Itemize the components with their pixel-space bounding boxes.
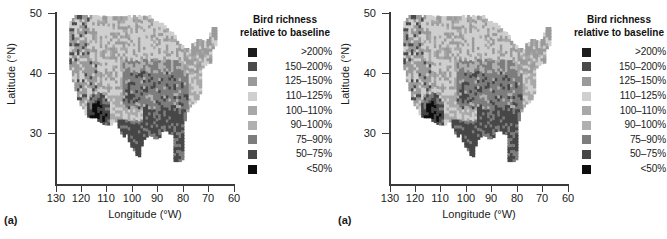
legend-item-label: 110–125% bbox=[257, 91, 334, 101]
legend-swatch-icon bbox=[582, 48, 591, 57]
y-tick-label-30: 30 bbox=[350, 128, 376, 139]
legend-item: 150–200% bbox=[238, 60, 334, 75]
x-tick-label-80: 80 bbox=[170, 193, 196, 204]
legend-swatch-icon bbox=[248, 106, 257, 115]
legend-item: 150–200% bbox=[572, 60, 667, 75]
y-tick-label-40: 40 bbox=[16, 68, 42, 79]
legend-swatch-icon bbox=[582, 62, 591, 71]
legend-item: 75–90% bbox=[572, 133, 667, 148]
panel-label: (a) bbox=[4, 214, 17, 226]
y-tick-label-30: 30 bbox=[16, 128, 42, 139]
legend-item: 90–100% bbox=[572, 118, 667, 133]
x-tick-label-120: 120 bbox=[402, 193, 428, 204]
x-tick-label-60: 60 bbox=[555, 193, 581, 204]
map-cells bbox=[69, 15, 217, 162]
legend-item: 110–125% bbox=[238, 89, 334, 104]
x-tick-label-110: 110 bbox=[93, 193, 119, 204]
legend-item-label: 100–110% bbox=[591, 106, 667, 116]
legend-item-label: 75–90% bbox=[591, 135, 667, 145]
legend-item-label: 110–125% bbox=[591, 91, 667, 101]
x-axis-title: Longitude (°W) bbox=[389, 208, 569, 220]
legend-entries: >200% 150–200% 125–150% 110–125% 100–110… bbox=[572, 45, 667, 176]
legend-title-line2: relative to baseline bbox=[237, 27, 333, 40]
legend-item: 100–110% bbox=[572, 103, 667, 118]
y-tick-label-40: 40 bbox=[350, 68, 376, 79]
y-tick-40 bbox=[382, 73, 389, 74]
y-tick-30 bbox=[382, 133, 389, 134]
legend-title-line2: relative to baseline bbox=[571, 27, 667, 40]
legend-item-label: 125–150% bbox=[257, 76, 334, 86]
legend-item: 75–90% bbox=[238, 133, 334, 148]
y-tick-label-50: 50 bbox=[350, 8, 376, 19]
legend-item: 90–100% bbox=[238, 118, 334, 133]
legend-title-line1: Bird richness bbox=[571, 14, 667, 27]
legend-swatch-icon bbox=[248, 48, 257, 57]
legend-item: 110–125% bbox=[572, 89, 667, 104]
x-axis-title: Longitude (°W) bbox=[55, 208, 235, 220]
y-tick-30 bbox=[48, 133, 55, 134]
panel-right: 50 40 30 130 120 110 100 90 80 70 60 Lat… bbox=[334, 0, 667, 239]
legend-item: 125–150% bbox=[572, 74, 667, 89]
legend-swatch-icon bbox=[248, 62, 257, 71]
legend: Bird richness relative to baseline >200%… bbox=[238, 14, 334, 176]
legend-item-label: 90–100% bbox=[257, 120, 334, 130]
legend-item: >200% bbox=[572, 45, 667, 60]
legend-title-line1: Bird richness bbox=[237, 14, 333, 27]
x-tick-label-100: 100 bbox=[453, 193, 479, 204]
legend-swatch-icon bbox=[582, 150, 591, 159]
x-tick-label-60: 60 bbox=[221, 193, 247, 204]
legend-item-label: 125–150% bbox=[591, 76, 667, 86]
legend-item: >200% bbox=[238, 45, 334, 60]
x-tick-label-100: 100 bbox=[119, 193, 145, 204]
x-tick-label-70: 70 bbox=[195, 193, 221, 204]
x-tick-label-90: 90 bbox=[478, 193, 504, 204]
choropleth-map bbox=[56, 12, 234, 185]
y-axis-title: Latitude (°N) bbox=[5, 29, 17, 119]
legend-item: 50–75% bbox=[572, 147, 667, 162]
legend-swatch-icon bbox=[248, 92, 257, 101]
legend-item-label: 75–90% bbox=[257, 135, 334, 145]
y-tick-50 bbox=[48, 13, 55, 14]
legend-item-label: 50–75% bbox=[257, 149, 334, 159]
legend-item-label: <50% bbox=[257, 164, 334, 174]
figure-bird-richness-maps: 50 40 30 130 120 110 100 90 80 70 60 Lat… bbox=[0, 0, 667, 239]
legend-swatch-icon bbox=[248, 77, 257, 86]
legend-swatch-icon bbox=[582, 77, 591, 86]
legend-item-label: 150–200% bbox=[257, 62, 334, 72]
x-tick-label-130: 130 bbox=[43, 193, 69, 204]
x-tick-label-70: 70 bbox=[529, 193, 555, 204]
map-svg bbox=[56, 12, 234, 185]
legend-entries: >200% 150–200% 125–150% 110–125% 100–110… bbox=[238, 45, 334, 176]
legend-item-label: >200% bbox=[257, 47, 334, 57]
legend-swatch-icon bbox=[582, 135, 591, 144]
legend-item: <50% bbox=[238, 162, 334, 177]
legend-item: 50–75% bbox=[238, 147, 334, 162]
legend: Bird richness relative to baseline >200%… bbox=[572, 14, 667, 176]
legend-item-label: 100–110% bbox=[257, 106, 334, 116]
legend-swatch-icon bbox=[248, 150, 257, 159]
y-axis-title: Latitude (°N) bbox=[339, 29, 351, 119]
legend-item-label: <50% bbox=[591, 164, 667, 174]
legend-item-label: 90–100% bbox=[591, 120, 667, 130]
legend-swatch-icon bbox=[582, 106, 591, 115]
map-cells bbox=[403, 15, 551, 162]
legend-swatch-icon bbox=[582, 165, 591, 174]
panel-left: 50 40 30 130 120 110 100 90 80 70 60 Lat… bbox=[0, 0, 333, 239]
legend-item: 100–110% bbox=[238, 103, 334, 118]
legend-item-label: 150–200% bbox=[591, 62, 667, 72]
y-tick-50 bbox=[382, 13, 389, 14]
legend-swatch-icon bbox=[248, 165, 257, 174]
choropleth-map bbox=[390, 12, 568, 185]
y-tick-label-50: 50 bbox=[16, 8, 42, 19]
x-tick-label-110: 110 bbox=[427, 193, 453, 204]
legend-swatch-icon bbox=[582, 92, 591, 101]
legend-swatch-icon bbox=[248, 121, 257, 130]
legend-item: 125–150% bbox=[238, 74, 334, 89]
x-tick-label-80: 80 bbox=[504, 193, 530, 204]
x-tick-label-120: 120 bbox=[68, 193, 94, 204]
legend-item: <50% bbox=[572, 162, 667, 177]
x-tick-label-90: 90 bbox=[144, 193, 170, 204]
y-tick-40 bbox=[48, 73, 55, 74]
legend-swatch-icon bbox=[248, 135, 257, 144]
legend-swatch-icon bbox=[582, 121, 591, 130]
